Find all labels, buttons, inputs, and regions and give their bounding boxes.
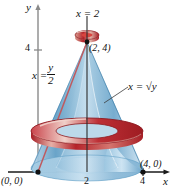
point-label-x-intercept: (4, 0) xyxy=(140,159,162,169)
point-label-origin: (0, 0) xyxy=(1,176,23,186)
y-tick-label-4: 4 xyxy=(25,43,30,53)
x-tick-label-2: 2 xyxy=(84,176,89,186)
x-axis-label: x xyxy=(163,176,168,187)
label-x-equals-y-over-2: x = y 2 xyxy=(32,62,55,86)
label-x-equals-sqrt-y: x = √y xyxy=(128,81,157,92)
label-fraction-denominator: 2 xyxy=(47,75,55,87)
y-axis-label: y xyxy=(26,2,31,13)
label-fraction-numerator: y xyxy=(47,62,55,75)
x-tick-label-4: 4 xyxy=(140,176,145,186)
point-label-apex: (2, 4) xyxy=(89,43,111,53)
label-x-equals-y-over-2-lhs: x = xyxy=(32,69,47,81)
label-x-equals-2: x = 2 xyxy=(76,8,99,19)
solid-of-revolution-figure: y x 4 2 4 x = 2 (2, 4) (0, 0) (4, 0) x =… xyxy=(0,0,175,196)
